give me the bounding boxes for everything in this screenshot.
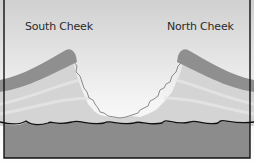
south-cheek-label: South Cheek xyxy=(25,20,93,33)
base-rock xyxy=(4,122,250,158)
north-cheek-label: North Cheek xyxy=(167,20,234,33)
cross-section-diagram: South Cheek North Cheek xyxy=(0,0,254,167)
